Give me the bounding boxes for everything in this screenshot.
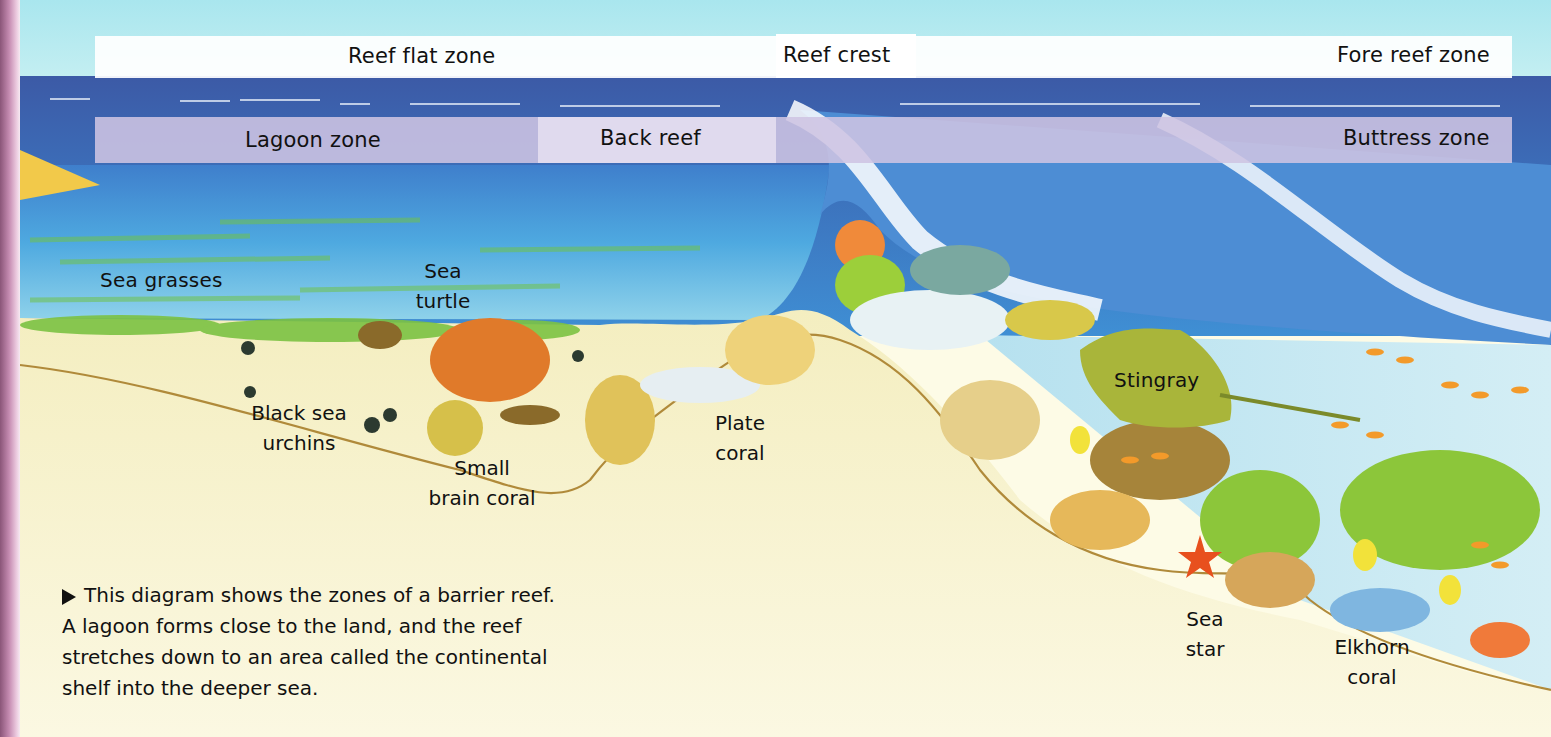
label-urchins-line2: urchins <box>238 428 360 458</box>
label-fore-reef-zone: Fore reef zone <box>1337 43 1490 67</box>
label-sea-turtle-line1: Sea <box>408 256 478 286</box>
label-stingray: Stingray <box>1114 368 1199 392</box>
label-reef-flat-zone: Reef flat zone <box>348 44 495 68</box>
label-sea-star: Sea star <box>1170 604 1240 664</box>
label-elkhorn-line2: coral <box>1322 662 1422 692</box>
page-edge <box>0 0 20 737</box>
label-lagoon-zone: Lagoon zone <box>245 128 381 152</box>
label-sea-turtle: Sea turtle <box>408 256 478 316</box>
label-back-reef: Back reef <box>600 126 701 150</box>
label-plate-coral-line2: coral <box>700 438 780 468</box>
reef-diagram: Reef flat zone Reef crest Fore reef zone… <box>0 0 1551 737</box>
caption-line-1: This diagram shows the zones of a barrie… <box>84 583 555 607</box>
caption-line-3: stretches down to an area called the con… <box>62 642 662 673</box>
label-plate-coral-line1: Plate <box>700 408 780 438</box>
triangle-bullet-icon <box>62 589 76 605</box>
label-sea-turtle-line2: turtle <box>408 286 478 316</box>
caption-line-2: A lagoon forms close to the land, and th… <box>62 611 662 642</box>
label-plate-coral: Plate coral <box>700 408 780 468</box>
label-elkhorn-line1: Elkhorn <box>1322 632 1422 662</box>
label-sea-grasses: Sea grasses <box>100 268 223 292</box>
label-sea-star-line1: Sea <box>1170 604 1240 634</box>
label-reef-crest: Reef crest <box>783 43 890 67</box>
caption-line-4: shelf into the deeper sea. <box>62 673 662 704</box>
label-small-brain-coral: Small brain coral <box>412 453 552 513</box>
label-urchins-line1: Black sea <box>238 398 360 428</box>
label-elkhorn-coral: Elkhorn coral <box>1322 632 1422 692</box>
label-brain-coral-line1: Small <box>412 453 552 483</box>
diagram-caption: This diagram shows the zones of a barrie… <box>62 580 662 704</box>
label-buttress-zone: Buttress zone <box>1343 126 1490 150</box>
label-black-sea-urchins: Black sea urchins <box>238 398 360 458</box>
label-sea-star-line2: star <box>1170 634 1240 664</box>
label-brain-coral-line2: brain coral <box>412 483 552 513</box>
